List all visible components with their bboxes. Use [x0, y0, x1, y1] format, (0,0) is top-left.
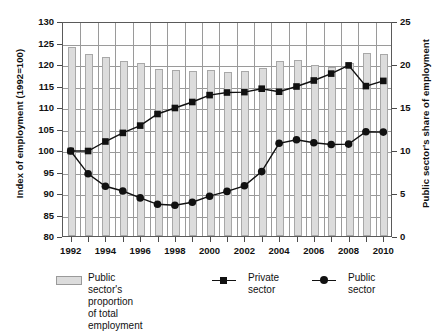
- marker-2009: [363, 83, 370, 90]
- x-tick-label-2002: 2002: [227, 245, 261, 256]
- y-tick-right-10: [392, 151, 397, 152]
- x-tick-1998: [175, 237, 176, 242]
- x-tick-2006: [314, 237, 315, 242]
- x-tick-1992: [71, 237, 72, 242]
- y-tick-left-100: [57, 151, 62, 152]
- y-tick-label-left-120: 120: [26, 59, 54, 70]
- x-tick-1996: [140, 237, 141, 242]
- marker-2008: [345, 140, 353, 148]
- marker-1999: [189, 198, 197, 206]
- marker-2003: [258, 168, 266, 176]
- marker-1997: [154, 201, 162, 209]
- x-tick-2007: [331, 237, 332, 242]
- y-tick-left-115: [57, 87, 62, 88]
- y-tick-label-right-20: 20: [400, 59, 428, 70]
- x-tick-2004: [279, 237, 280, 242]
- y-tick-left-95: [57, 173, 62, 174]
- x-tick-label-1994: 1994: [88, 245, 122, 256]
- legend-label-2: Public sector: [348, 272, 375, 296]
- y-tick-label-left-105: 105: [26, 124, 54, 135]
- x-tick-label-2008: 2008: [332, 245, 366, 256]
- x-tick-2000: [210, 237, 211, 242]
- x-tick-1993: [88, 237, 89, 242]
- marker-2006: [311, 77, 318, 84]
- marker-2008: [345, 62, 352, 69]
- x-tick-label-2000: 2000: [193, 245, 227, 256]
- marker-2001: [224, 89, 231, 96]
- y-tick-right-15: [392, 108, 397, 109]
- y-tick-left-130: [57, 22, 62, 23]
- y-axis-left-title: Index of employment (1992=100): [14, 16, 25, 231]
- y-tick-left-105: [57, 130, 62, 131]
- y-tick-left-120: [57, 65, 62, 66]
- marker-1999: [189, 99, 196, 106]
- marker-2000: [206, 92, 213, 99]
- y-tick-label-left-130: 130: [26, 16, 54, 27]
- y-tick-label-left-115: 115: [26, 81, 54, 92]
- marker-2004: [275, 140, 283, 148]
- marker-1996: [137, 122, 144, 129]
- marker-2010: [380, 78, 387, 85]
- x-tick-label-2010: 2010: [366, 245, 400, 256]
- line-series-layer: [62, 22, 392, 237]
- y-tick-label-left-100: 100: [26, 145, 54, 156]
- marker-1994: [102, 138, 109, 145]
- x-tick-2005: [297, 237, 298, 242]
- marker-2000: [206, 192, 214, 200]
- marker-2007: [328, 70, 335, 77]
- x-tick-2009: [366, 237, 367, 242]
- y-tick-label-left-85: 85: [26, 210, 54, 221]
- x-tick-1999: [192, 237, 193, 242]
- y-tick-left-125: [57, 44, 62, 45]
- x-tick-label-1996: 1996: [123, 245, 157, 256]
- chart-legend: Public sector's proportion of total empl…: [0, 272, 440, 310]
- legend-circle-marker-icon: [320, 276, 328, 284]
- y-tick-right-5: [392, 194, 397, 195]
- marker-1993: [85, 148, 92, 155]
- line-series-private-sector: [67, 62, 386, 154]
- y-tick-label-left-125: 125: [26, 38, 54, 49]
- x-tick-label-1992: 1992: [54, 245, 88, 256]
- legend-bar-swatch-icon: [56, 276, 82, 285]
- y-tick-label-left-110: 110: [26, 102, 54, 113]
- legend-label-0: Public sector's proportion of total empl…: [88, 272, 142, 332]
- legend-square-marker-icon: [220, 277, 227, 284]
- marker-1995: [119, 187, 127, 195]
- marker-2005: [293, 136, 301, 144]
- y-tick-left-85: [57, 216, 62, 217]
- y-tick-left-80: [57, 237, 62, 238]
- y-tick-label-left-90: 90: [26, 188, 54, 199]
- marker-2001: [223, 188, 231, 196]
- x-tick-2010: [383, 237, 384, 242]
- marker-1996: [136, 194, 144, 202]
- line-path: [71, 65, 384, 151]
- marker-2009: [362, 128, 370, 136]
- y-tick-label-right-10: 10: [400, 145, 428, 156]
- x-tick-2008: [349, 237, 350, 242]
- marker-2005: [293, 83, 300, 90]
- y-tick-label-right-25: 25: [400, 16, 428, 27]
- x-tick-2003: [262, 237, 263, 242]
- marker-2002: [241, 89, 248, 96]
- marker-2002: [241, 182, 249, 190]
- x-tick-1995: [123, 237, 124, 242]
- legend-label-1: Private sector: [248, 272, 279, 296]
- y-tick-left-110: [57, 108, 62, 109]
- marker-1998: [171, 201, 179, 209]
- x-tick-2002: [244, 237, 245, 242]
- y-tick-right-20: [392, 65, 397, 66]
- marker-2010: [380, 128, 388, 136]
- marker-2003: [258, 85, 265, 92]
- marker-2007: [327, 141, 335, 149]
- line-series-public-sector: [67, 128, 387, 209]
- marker-2004: [276, 88, 283, 95]
- marker-1992: [67, 147, 75, 155]
- x-tick-1997: [158, 237, 159, 242]
- marker-1995: [120, 130, 127, 137]
- marker-1997: [154, 111, 161, 118]
- y-tick-label-left-80: 80: [26, 231, 54, 242]
- marker-1993: [84, 170, 92, 178]
- marker-1998: [172, 105, 179, 112]
- y-tick-left-90: [57, 194, 62, 195]
